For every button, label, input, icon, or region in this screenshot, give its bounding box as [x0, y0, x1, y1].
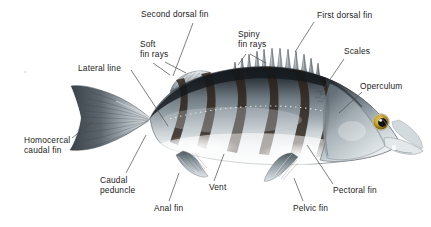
leader-first-dorsal-fin	[295, 22, 314, 52]
label-spiny-fin-rays: Spiny fin rays	[238, 29, 266, 49]
eye	[372, 113, 389, 130]
homocercal-caudal-fin-shape	[70, 86, 150, 151]
label-lateral-line: Lateral line	[78, 63, 121, 73]
label-operculum: Operculum	[360, 81, 402, 91]
fish-anatomy-figure: Second dorsal fin First dorsal fin Spiny…	[0, 0, 431, 227]
image-speck	[24, 71, 26, 73]
label-scales: Scales	[344, 46, 370, 56]
label-vent: Vent	[209, 182, 226, 192]
label-anal-fin: Anal fin	[154, 203, 183, 213]
leader-pelvic-fin	[294, 178, 303, 201]
label-pelvic-fin: Pelvic fin	[293, 203, 328, 213]
leader-caudal-peduncle	[126, 135, 146, 173]
label-homocercal-caudal-fin: Homocercal caudal fin	[24, 135, 70, 155]
label-caudal-peduncle: Caudal peduncle	[100, 175, 135, 195]
leader-soft-fin-rays	[153, 63, 170, 75]
label-second-dorsal-fin: Second dorsal fin	[141, 9, 209, 19]
label-soft-fin-rays: Soft fin rays	[140, 39, 168, 59]
leader-anal-fin	[169, 173, 179, 201]
leader-soft-fin-rays-2	[165, 62, 186, 73]
label-first-dorsal-fin: First dorsal fin	[317, 10, 372, 20]
label-pectoral-fin: Pectoral fin	[333, 185, 377, 195]
